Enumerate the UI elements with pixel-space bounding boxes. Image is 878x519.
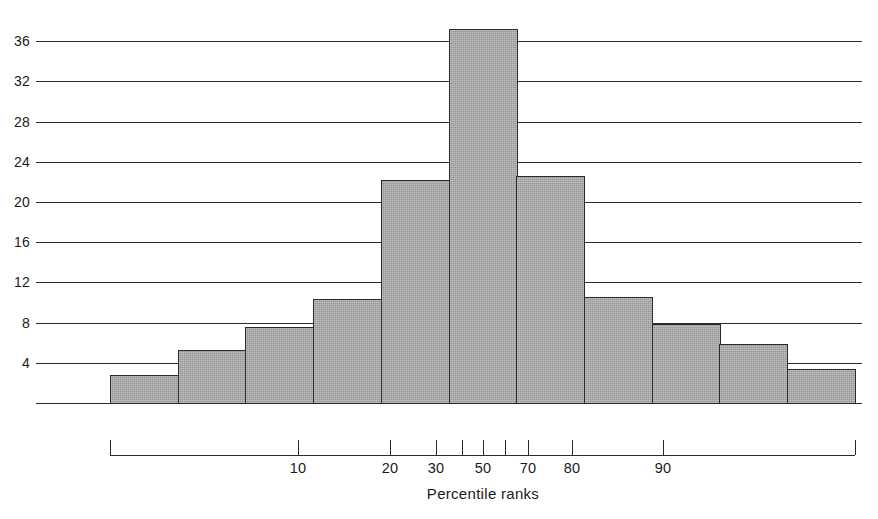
y-axis-tick-label: 12	[6, 275, 30, 289]
x-axis-tick	[528, 440, 529, 455]
x-axis-tick	[436, 440, 437, 455]
x-axis-tick	[483, 440, 484, 455]
x-axis-tick-label: 50	[475, 461, 492, 476]
x-axis-title: Percentile ranks	[427, 486, 539, 501]
histogram-bar	[110, 375, 179, 404]
histogram-bar	[652, 324, 721, 404]
histogram-figure: 4812162024283236 10203050708090 Percenti…	[0, 0, 878, 519]
y-axis-tick-label: 24	[6, 155, 30, 169]
y-axis-tick-label: 32	[6, 74, 30, 88]
x-axis-tick-label: 30	[428, 461, 445, 476]
y-axis-tick-label: 8	[6, 316, 30, 330]
x-axis-tick	[505, 440, 506, 455]
x-axis-tick-label: 90	[655, 461, 672, 476]
histogram-bar	[719, 344, 788, 404]
y-axis-tick-label: 16	[6, 235, 30, 249]
x-axis-tick	[663, 440, 664, 455]
histogram-bar	[787, 369, 856, 404]
y-axis-tick-label: 4	[6, 356, 30, 370]
y-axis-tick-label: 20	[6, 195, 30, 209]
x-axis-tick-label: 10	[290, 461, 307, 476]
y-axis-tick-label: 28	[6, 115, 30, 129]
histogram-bar	[516, 176, 585, 404]
x-axis-tick	[462, 440, 463, 455]
x-axis-line	[110, 455, 855, 456]
histogram-bar	[313, 299, 382, 404]
x-axis-tick	[390, 440, 391, 455]
x-axis-left-endcap	[110, 440, 111, 455]
x-axis-tick-label: 80	[564, 461, 581, 476]
histogram-bar	[178, 350, 247, 404]
x-axis-tick	[572, 440, 573, 455]
histogram-bar	[584, 297, 653, 404]
x-axis-tick-label: 20	[382, 461, 399, 476]
x-axis-tick-label: 70	[520, 461, 537, 476]
y-axis-tick-label: 36	[6, 34, 30, 48]
plot-baseline	[36, 403, 862, 404]
x-axis-right-endcap	[855, 440, 856, 455]
histogram-bar	[245, 327, 314, 404]
histogram-bar	[381, 180, 450, 404]
x-axis-tick	[298, 440, 299, 455]
histogram-bar	[449, 29, 518, 404]
